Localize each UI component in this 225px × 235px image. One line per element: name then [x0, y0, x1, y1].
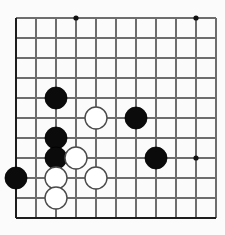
- white-stone-c2-r9[interactable]: [45, 187, 67, 209]
- black-stone-c0-r8[interactable]: [5, 167, 27, 189]
- star-point-1: [193, 15, 198, 20]
- white-stone-c2-r8[interactable]: [45, 167, 67, 189]
- star-point-0: [73, 15, 78, 20]
- black-stone-c6-r5[interactable]: [125, 107, 147, 129]
- white-stone-c4-r5[interactable]: [85, 107, 107, 129]
- black-stone-c2-r4[interactable]: [45, 87, 67, 109]
- black-stone-c7-r7[interactable]: [145, 147, 167, 169]
- black-stone-c2-r6[interactable]: [45, 127, 67, 149]
- go-board-container: [0, 0, 225, 235]
- go-board[interactable]: [0, 0, 225, 235]
- white-stone-c3-r7[interactable]: [65, 147, 87, 169]
- white-stone-c4-r8[interactable]: [85, 167, 107, 189]
- star-point-2: [193, 155, 198, 160]
- black-stone-c2-r7[interactable]: [45, 147, 67, 169]
